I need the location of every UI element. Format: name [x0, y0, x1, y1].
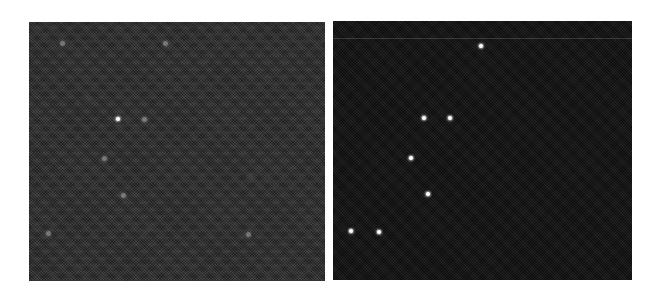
detected-star-field-panel: [333, 21, 632, 280]
faint-star-left: [60, 41, 65, 46]
faint-star-left: [142, 117, 147, 122]
bright-star-left: [116, 117, 120, 121]
faint-star-left: [121, 193, 126, 198]
faint-star-left: [46, 231, 51, 236]
bright-star-right: [448, 116, 452, 120]
faint-star-left: [102, 156, 107, 161]
figure-canvas: [0, 0, 659, 296]
faint-star-left: [246, 232, 251, 237]
bright-star-right: [349, 229, 353, 233]
bright-star-right: [422, 116, 426, 120]
faint-star-left: [163, 41, 168, 46]
bright-star-right: [479, 44, 483, 48]
scan-line-artifact: [333, 38, 632, 39]
bright-star-right: [377, 230, 381, 234]
bright-star-right: [409, 156, 413, 160]
noisy-star-field-panel: [29, 22, 325, 281]
bright-star-right: [426, 192, 430, 196]
